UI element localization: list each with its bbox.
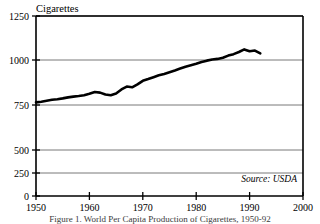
x-tick-label-1950: 1950 xyxy=(26,202,46,213)
x-tick-label-2000: 2000 xyxy=(293,202,313,213)
y-tick-label-1000: 1000 xyxy=(9,55,29,66)
y-axis-title: Cigarettes xyxy=(36,3,79,14)
line-chart-figure: Cigarettes 1250 1000 xyxy=(0,0,320,224)
source-note: Source: USDA xyxy=(241,174,297,184)
y-tick-label-750: 750 xyxy=(14,100,29,111)
chart-background xyxy=(0,0,320,224)
y-tick-label-1250: 1250 xyxy=(9,11,29,22)
y-tick-label-250: 250 xyxy=(14,168,29,179)
x-tick-label-1980: 1980 xyxy=(186,202,206,213)
x-tick-label-1960: 1960 xyxy=(79,202,99,213)
chart-container: Cigarettes 1250 1000 xyxy=(0,0,320,224)
y-tick-label-500: 500 xyxy=(14,145,29,156)
x-tick-label-1990: 1990 xyxy=(240,202,260,213)
y-tick-label-0: 0 xyxy=(24,191,29,202)
figure-caption: Figure 1. World Per Capita Production of… xyxy=(49,214,271,224)
x-tick-label-1970: 1970 xyxy=(133,202,153,213)
